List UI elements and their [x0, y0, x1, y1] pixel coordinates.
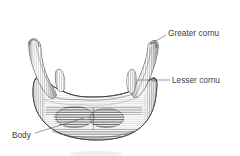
label-lesser-cornu: Lesser cornu — [172, 76, 220, 85]
leader-line-greater-cornu — [151, 35, 166, 44]
label-body: Body — [12, 131, 31, 140]
paper-smudge — [70, 151, 122, 156]
label-greater-cornu: Greater cornu — [168, 29, 219, 38]
hyoid-bone-figure: Greater cornu Lesser cornu Body — [0, 0, 240, 156]
